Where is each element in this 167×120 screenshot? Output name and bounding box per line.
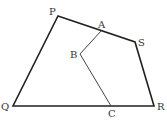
label-c: C	[108, 108, 116, 119]
geometry-diagram: P A S B Q C R	[0, 0, 167, 120]
label-r: R	[157, 101, 165, 112]
label-s: S	[138, 37, 145, 48]
quadrilateral-pqrs	[13, 16, 154, 106]
label-b: B	[70, 49, 77, 60]
path-abc	[80, 31, 111, 106]
label-p: P	[49, 6, 56, 17]
label-a: A	[97, 19, 106, 30]
label-q: Q	[1, 101, 9, 112]
